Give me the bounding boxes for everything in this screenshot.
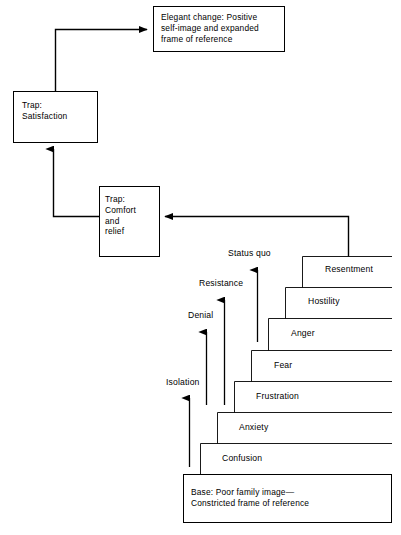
- trap-comfort-label: Trap: Comfort and relief: [105, 194, 159, 237]
- step-label-frustration: Frustration: [256, 391, 299, 402]
- step-label-anger: Anger: [291, 328, 315, 339]
- arrow-label-isolation: Isolation: [166, 377, 200, 388]
- staircase-steps: [201, 257, 393, 475]
- step-label-fear: Fear: [274, 360, 292, 371]
- step-label-confusion: Confusion: [222, 453, 262, 464]
- arrow-label-denial: Denial: [188, 310, 213, 321]
- arrow-label-resistance: Resistance: [199, 278, 243, 289]
- connector-satisfaction-to-elegant: [56, 30, 148, 92]
- base-box-label: Base: Poor family image— Constricted fra…: [191, 487, 389, 509]
- step-label-anxiety: Anxiety: [239, 422, 268, 433]
- diagram-canvas: Elegant change: Positive self-image and …: [0, 0, 401, 535]
- step-label-hostility: Hostility: [308, 296, 340, 307]
- step-anger-outline: [269, 319, 393, 351]
- arrow-label-status-quo: Status quo: [228, 248, 271, 259]
- elegant-change-label: Elegant change: Positive self-image and …: [161, 12, 283, 44]
- step-fear-outline: [252, 351, 393, 382]
- connector-comfort-to-satisfaction: [54, 149, 100, 217]
- trap-satisfaction-label: Trap: Satisfaction: [22, 100, 96, 122]
- step-label-resentment: Resentment: [325, 264, 373, 275]
